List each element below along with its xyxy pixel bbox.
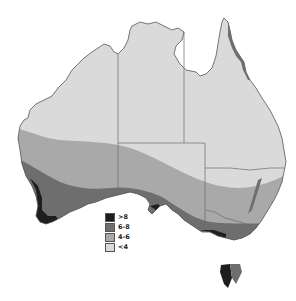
legend-swatch — [105, 233, 115, 242]
legend-item: >8 — [105, 212, 130, 222]
legend-swatch — [105, 223, 115, 232]
legend-label: 6-8 — [118, 222, 130, 232]
tasmania — [220, 264, 242, 288]
legend-swatch — [105, 213, 115, 222]
map-legend: >8 6-8 4-6 <4 — [105, 212, 130, 252]
legend-label: 4-6 — [118, 232, 130, 242]
legend-swatch — [105, 243, 115, 252]
legend-item: <4 — [105, 242, 130, 252]
legend-label: <4 — [118, 242, 128, 252]
legend-label: >8 — [118, 212, 128, 222]
australia-map — [0, 0, 296, 301]
legend-item: 4-6 — [105, 232, 130, 242]
map-svg — [0, 0, 296, 301]
legend-item: 6-8 — [105, 222, 130, 232]
